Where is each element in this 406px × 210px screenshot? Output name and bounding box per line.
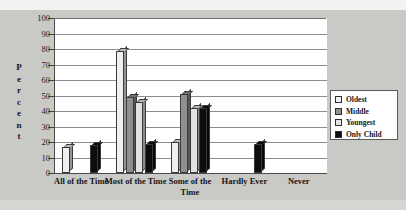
legend-label: Middle xyxy=(346,107,369,116)
legend-item[interactable]: Youngest xyxy=(335,117,397,128)
y-axis-label-letter: n xyxy=(12,120,26,132)
legend-swatch xyxy=(335,131,342,138)
y-axis-tick-label: 0 xyxy=(26,169,50,177)
chart-legend: OldestMiddleYoungestOnly Child xyxy=(330,90,398,140)
bar xyxy=(116,51,124,173)
y-axis-tick-label: 50 xyxy=(26,92,50,100)
legend-item[interactable]: Oldest xyxy=(335,94,397,105)
legend-item[interactable]: Only Child xyxy=(335,129,397,140)
legend-swatch xyxy=(335,119,342,126)
bar xyxy=(190,108,198,173)
bar-face xyxy=(190,108,198,173)
gridline xyxy=(55,96,327,97)
y-axis-tick-label: 60 xyxy=(26,76,50,84)
legend-label: Oldest xyxy=(346,95,367,104)
legend-swatch xyxy=(335,108,342,115)
plot-top-border xyxy=(54,18,326,19)
bar-face xyxy=(126,97,134,173)
y-axis-tick-label: 80 xyxy=(26,45,50,53)
bar-face xyxy=(62,147,70,173)
bar-top xyxy=(92,142,103,145)
bar-top xyxy=(147,141,158,144)
plot-area xyxy=(54,18,327,174)
gridline xyxy=(55,49,327,50)
y-axis-label-letter: e xyxy=(12,74,26,86)
gridline xyxy=(55,34,327,35)
bar xyxy=(126,97,134,173)
bar xyxy=(199,108,207,173)
bar-side xyxy=(207,103,210,171)
y-axis-label-letter: c xyxy=(12,97,26,109)
bar-top xyxy=(118,48,129,51)
legend-swatch xyxy=(335,96,342,103)
bar-top xyxy=(64,144,75,147)
gridline xyxy=(55,65,327,66)
bar xyxy=(145,144,153,173)
bar xyxy=(254,144,262,173)
y-axis-label-letter: r xyxy=(12,85,26,97)
bar-face xyxy=(145,144,153,173)
bar-top xyxy=(128,94,139,97)
bar-top xyxy=(182,91,193,94)
bar xyxy=(180,94,188,173)
bar xyxy=(171,142,179,173)
y-axis-tick-label: 20 xyxy=(26,138,50,146)
legend-label: Only Child xyxy=(346,130,382,139)
y-axis-label-letter: t xyxy=(12,131,26,143)
y-axis-label-letter: e xyxy=(12,108,26,120)
y-axis-tick-label: 70 xyxy=(26,61,50,69)
bar-chart: Percent 0102030405060708090100 All of th… xyxy=(0,10,406,200)
bar xyxy=(135,102,143,173)
y-axis-label-letter: P xyxy=(12,62,26,74)
bar-face xyxy=(254,144,262,173)
y-axis-label: Percent xyxy=(12,62,26,143)
gridline xyxy=(55,80,327,81)
legend-item[interactable]: Middle xyxy=(335,106,397,117)
bar-face xyxy=(171,142,179,173)
y-axis-tick-label: 40 xyxy=(26,107,50,115)
legend-label: Youngest xyxy=(346,118,375,127)
bar xyxy=(90,145,98,173)
y-axis-tick-label: 90 xyxy=(26,30,50,38)
y-axis-tick-labels: 0102030405060708090100 xyxy=(26,14,50,174)
y-axis-tick-label: 100 xyxy=(26,14,50,22)
y-axis-tick-label: 30 xyxy=(26,123,50,131)
bar-top xyxy=(137,99,148,102)
bar-top xyxy=(201,105,212,108)
page-top-margin xyxy=(0,0,406,10)
bar xyxy=(62,147,70,173)
y-axis-tick-label: 10 xyxy=(26,154,50,162)
x-axis-category-labels: All of the TimeMost of the TimeSome of t… xyxy=(54,176,326,210)
x-axis-category-label: Never xyxy=(267,176,330,187)
